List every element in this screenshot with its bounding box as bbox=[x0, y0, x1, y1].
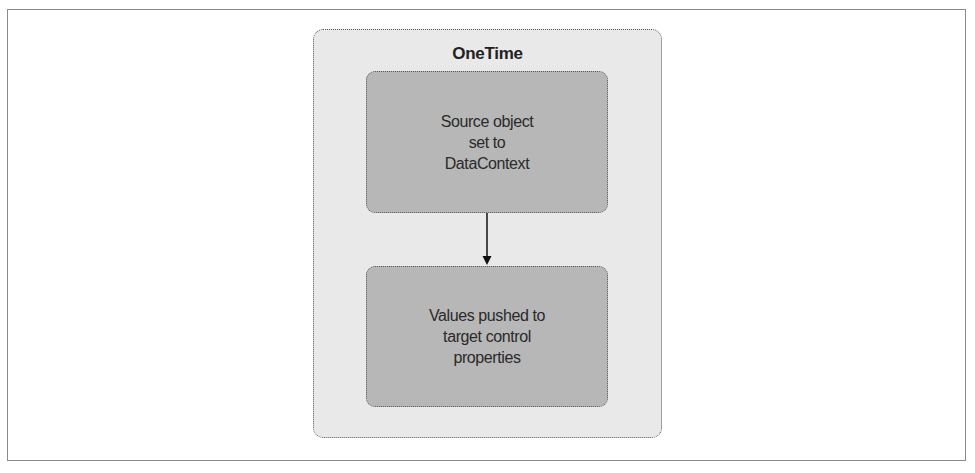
node-source-object: Source object set to DataContext bbox=[366, 71, 608, 213]
arrow-down-icon bbox=[481, 213, 493, 266]
node-label: Values pushed to target control properti… bbox=[429, 305, 545, 368]
container-title: OneTime bbox=[314, 44, 661, 64]
node-target-values: Values pushed to target control properti… bbox=[366, 266, 608, 407]
onetime-container: OneTime Source object set to DataContext… bbox=[313, 29, 662, 438]
node-label: Source object set to DataContext bbox=[441, 111, 534, 174]
